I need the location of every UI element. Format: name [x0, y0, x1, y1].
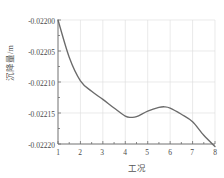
settlement-line-chart: 沉降量/m -0.02200 -0.02205 -0.02210 -0.0221…: [0, 0, 224, 178]
data-series-line: [58, 20, 215, 146]
plot-area: [0, 0, 224, 178]
